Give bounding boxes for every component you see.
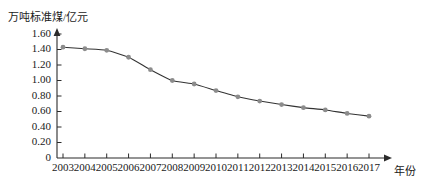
data-markers <box>61 45 372 119</box>
data-point <box>345 111 350 116</box>
y-axis-tick-label: 1.20 <box>17 58 51 70</box>
y-axis-tick-label: 0.40 <box>17 120 51 132</box>
y-axis-tick-label: 1.60 <box>17 27 51 39</box>
y-axis-ticks <box>57 34 62 143</box>
data-point <box>257 99 262 104</box>
data-point <box>214 88 219 93</box>
y-axis-tick-label: 0 <box>17 151 51 163</box>
y-axis-arrowhead <box>54 28 61 36</box>
data-point <box>279 102 284 107</box>
y-axis-tick-label: 1.40 <box>17 42 51 54</box>
x-axis-tick-label: 2017 <box>356 161 382 173</box>
data-point <box>126 55 131 60</box>
y-axis-tick-label: 1.00 <box>17 73 51 85</box>
data-line <box>63 47 369 116</box>
data-point <box>61 45 66 50</box>
y-axis-tick-label: 0.20 <box>17 135 51 147</box>
data-point <box>192 82 197 87</box>
x-axis-arrowhead <box>384 155 392 162</box>
data-point <box>104 48 109 53</box>
data-point <box>301 105 306 110</box>
y-axis-tick-label: 0.80 <box>17 89 51 101</box>
axes <box>54 28 392 161</box>
x-axis-ticks <box>63 154 369 159</box>
data-point <box>148 67 153 72</box>
data-point <box>235 94 240 99</box>
line-chart: 万吨标准煤/亿元 年份 00.200.400.600.801.001.201.4… <box>0 0 427 189</box>
y-axis-tick-label: 0.60 <box>17 104 51 116</box>
data-point <box>367 114 372 119</box>
data-point <box>323 108 328 113</box>
data-point <box>82 46 87 51</box>
data-point <box>170 78 175 83</box>
